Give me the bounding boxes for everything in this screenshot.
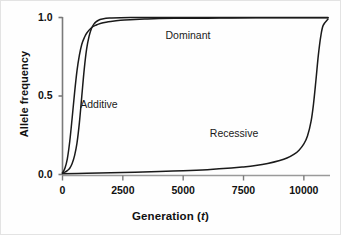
x-axis-label: Generation (t) (0, 210, 341, 222)
y-tick-label: 1.0 (13, 11, 53, 23)
x-axis-ticks (63, 176, 304, 181)
y-tick-label: 0.0 (13, 168, 53, 180)
x-tick-label: 7500 (214, 184, 274, 196)
series-label-recessive: Recessive (210, 127, 258, 139)
x-axis-label-variable: t (201, 210, 205, 222)
series-label-dominant: Dominant (166, 29, 211, 41)
x-axis-label-text: Generation (132, 210, 194, 222)
x-tick-label: 2500 (93, 184, 153, 196)
figure-panel: Allele frequency Generation (t) 0.00.51.… (0, 0, 341, 235)
x-tick-label: 10000 (274, 184, 334, 196)
series-label-additive: Additive (80, 98, 117, 110)
x-tick-label: 0 (33, 184, 93, 196)
x-tick-label: 5000 (153, 184, 213, 196)
y-tick-label: 0.5 (13, 89, 53, 101)
series-line-recessive (63, 19, 329, 174)
